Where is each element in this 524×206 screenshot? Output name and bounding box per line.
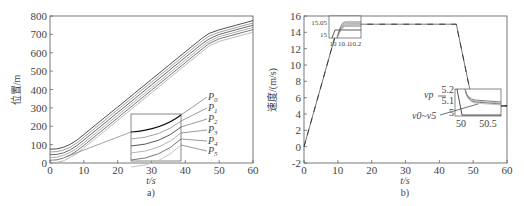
inset-top-y-label: 15: [320, 31, 328, 39]
y-tick-label: 500: [31, 65, 48, 77]
y-tick-label: 400: [31, 84, 48, 96]
y-tick-label: 2: [296, 124, 302, 136]
legend-leader: [181, 119, 207, 127]
inset-top-box: [329, 16, 361, 38]
x-tick-label: 10: [78, 164, 90, 176]
inset-right-x-label: 50: [456, 118, 466, 129]
y-tick-label: 6: [296, 92, 302, 104]
v0-v5-label: v0~v5: [412, 110, 436, 121]
y-tick-label: 800: [31, 10, 48, 22]
x-tick-label: 20: [366, 164, 378, 176]
y-axis-label: 位置/m: [10, 75, 22, 106]
caption-b: b): [401, 187, 409, 199]
x-tick-label: 0: [47, 164, 53, 176]
legend-leader: [181, 145, 207, 151]
legend-leader: [181, 130, 207, 133]
inset-top-x-label: 10: [330, 40, 338, 48]
y-tick-label: 8: [296, 75, 302, 87]
velocity-chart: 0102030405060-202468101214161515.051010.…: [266, 10, 513, 199]
x-tick-label: 50: [214, 164, 226, 176]
x-tick-label: 60: [502, 164, 514, 176]
inset-right-y-label: 5.1: [442, 95, 455, 106]
inset-right-x-label: 50.5: [479, 118, 497, 129]
vp-label: vp: [424, 89, 433, 100]
y-tick-label: 0: [296, 141, 302, 153]
x-axis-label: t/s: [146, 175, 156, 186]
y-tick-label: 14: [290, 26, 302, 38]
y-tick-label: 4: [296, 108, 302, 120]
x-tick-label: 60: [248, 164, 260, 176]
y-tick-label: 200: [31, 120, 48, 132]
inset-right-y-label: 5.2: [442, 84, 455, 95]
x-tick-label: 40: [434, 164, 446, 176]
legend-leader: [181, 97, 207, 115]
x-tick-label: 0: [301, 164, 307, 176]
position-chart: 01020304050600100200300400500600700800P0…: [10, 10, 259, 199]
x-tick-label: 50: [468, 164, 480, 176]
inset-box: [131, 114, 181, 161]
legend-leader: [181, 139, 207, 141]
x-tick-label: 20: [112, 164, 124, 176]
y-tick-label: 16: [290, 10, 302, 22]
y-tick-label: 300: [31, 102, 48, 114]
x-axis-label: t/s: [400, 175, 410, 186]
y-tick-label: 12: [290, 43, 301, 55]
figure: 01020304050600100200300400500600700800P0…: [0, 0, 524, 206]
inset-top-x-label: 10.2: [349, 40, 362, 48]
y-tick-label: 100: [31, 139, 48, 151]
y-tick-label: 700: [31, 28, 48, 40]
y-tick-label: 600: [31, 47, 48, 59]
x-tick-label: 10: [332, 164, 344, 176]
inset-top-y-label: 15.05: [311, 19, 327, 27]
y-axis-label: 速度/(m/s): [266, 68, 279, 112]
legend-leader: [181, 108, 207, 121]
y-tick-label: 0: [42, 157, 48, 169]
y-tick-label: -2: [292, 157, 301, 169]
y-tick-label: 10: [290, 59, 302, 71]
x-tick-label: 40: [180, 164, 192, 176]
caption-a: a): [147, 187, 155, 199]
